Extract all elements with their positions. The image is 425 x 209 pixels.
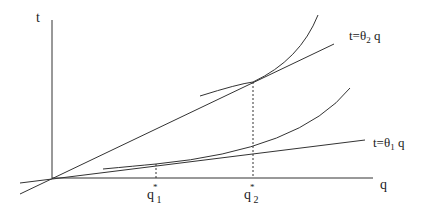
- theta1-line: [20, 140, 365, 183]
- t-axis-label: t: [36, 10, 40, 25]
- theta2-line-label: t=θ2 q: [349, 28, 381, 45]
- diagram-canvas: t q t=θ2 q t=θ1 q q*1 q*2: [0, 0, 425, 209]
- q-axis-label: q: [380, 177, 387, 192]
- q1-star-label: q*1: [147, 182, 162, 205]
- q2-star-label: q*2: [244, 182, 259, 205]
- theta1-line-label: t=θ1 q: [373, 135, 405, 152]
- theta2-line: [20, 44, 334, 194]
- upper-curve: [200, 15, 318, 96]
